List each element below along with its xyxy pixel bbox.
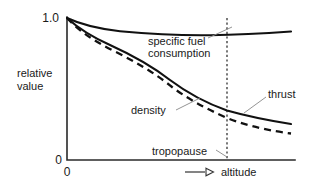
leader-line-thrust: [244, 97, 266, 113]
x-axis-title: altitude: [221, 166, 256, 178]
x-axis-arrow-head-icon: [206, 168, 214, 176]
label-specific-fuel-consumption-line-2: consumption: [148, 47, 210, 59]
label-specific-fuel-consumption-line-1: specific fuel: [148, 35, 205, 47]
altitude-performance-chart: 1.0 0 0 relative value specific fuel con…: [0, 0, 311, 190]
y-axis-title-line-2: value: [17, 80, 43, 92]
label-tropopause: tropopause: [152, 145, 207, 157]
y-axis-tick-top: 1.0: [42, 11, 59, 25]
y-axis-tick-bottom: 0: [55, 153, 62, 167]
curve-specific-fuel-consumption: [67, 18, 291, 35]
leader-line-density: [176, 98, 200, 110]
x-axis-tick-origin: 0: [64, 165, 71, 179]
leader-line-tropopause: [216, 150, 227, 157]
leader-line-specific-fuel-consumption: [208, 27, 232, 38]
label-thrust: thrust: [268, 88, 296, 100]
label-density: density: [131, 104, 166, 116]
chart-svg: 1.0 0 0 relative value specific fuel con…: [0, 0, 311, 190]
y-axis-title-line-1: relative: [17, 67, 52, 79]
